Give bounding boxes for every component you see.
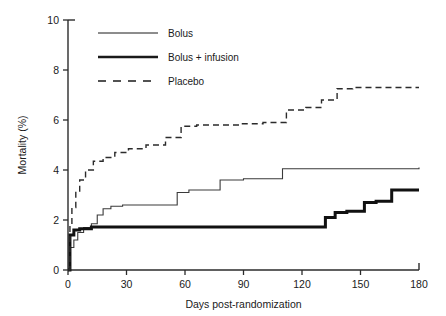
legend-label-2: Placebo [168, 76, 205, 87]
y-axis-title: Mortality (%) [16, 116, 28, 175]
x-tick-label: 150 [352, 278, 370, 290]
x-tick-label: 60 [179, 278, 191, 290]
legend-label-1: Bolus + infusion [168, 52, 239, 63]
y-tick-label: 4 [53, 164, 59, 176]
legend-label-0: Bolus [168, 28, 193, 39]
x-tick-label: 180 [410, 278, 428, 290]
y-tick-label: 2 [53, 214, 59, 226]
plot-background [0, 0, 446, 316]
x-axis-title: Days post-randomization [185, 298, 301, 310]
y-tick-label: 8 [53, 64, 59, 76]
mortality-step-chart: BolusBolus + infusionPlacebo 02468100306… [0, 0, 446, 316]
y-tick-label: 10 [47, 14, 59, 26]
x-tick-label: 30 [121, 278, 133, 290]
x-tick-label: 0 [65, 278, 71, 290]
chart-figure: BolusBolus + infusionPlacebo 02468100306… [0, 0, 446, 316]
x-tick-label: 120 [293, 278, 311, 290]
y-tick-label: 0 [53, 264, 59, 276]
x-tick-label: 90 [238, 278, 250, 290]
y-tick-label: 6 [53, 114, 59, 126]
